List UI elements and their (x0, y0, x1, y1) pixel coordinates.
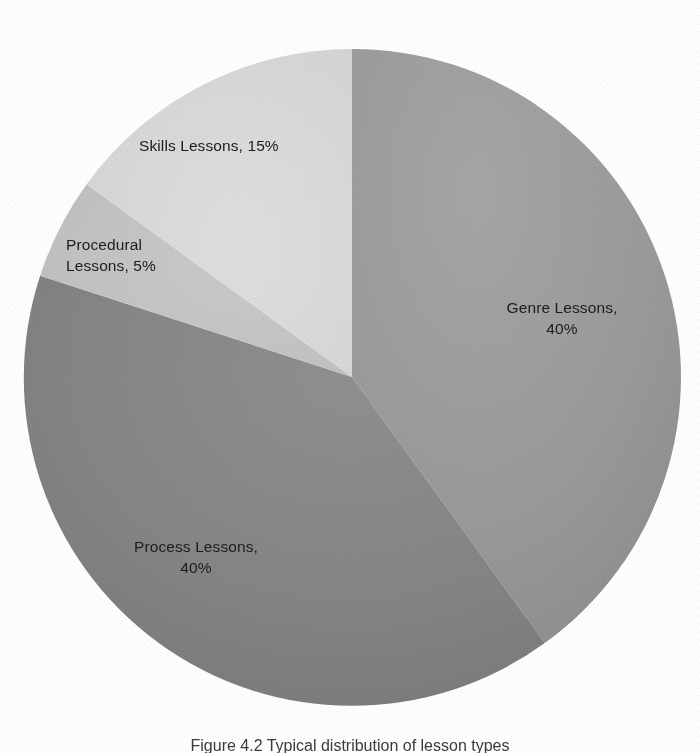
pie-chart-svg (0, 0, 700, 753)
pie-label-skills-lessons: Skills Lessons, 15% (139, 135, 279, 156)
pie-chart (0, 0, 700, 753)
pie-label-process-lessons: Process Lessons, 40% (116, 536, 276, 578)
pie-label-genre-lessons: Genre Lessons, 40% (497, 297, 627, 339)
figure-caption: Figure 4.2 Typical distribution of lesso… (0, 735, 700, 753)
figure-container: Skills Lessons, 15% Procedural Lessons, … (0, 0, 700, 753)
pie-label-procedural-lessons: Procedural Lessons, 5% (66, 234, 156, 276)
